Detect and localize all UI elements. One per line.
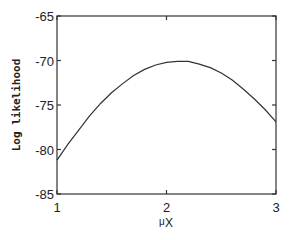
y-tick-label: -70 [35,54,54,69]
chart: -65-70-75-80-85123 Log likelihood μX [0,0,291,240]
y-axis-label: Log likelihood [10,59,23,152]
y-tick-label: -75 [35,98,54,113]
y-tick-label: -80 [35,143,54,158]
series-line-log-likelihood [57,61,276,160]
x-axis-label: μX [159,216,173,230]
y-tick-label: -85 [35,187,54,202]
x-tick-label: 3 [272,200,279,215]
y-tick-label: -65 [35,9,54,24]
plot-frame [57,16,276,194]
x-tick-label: 2 [163,200,170,215]
x-axis-label-subscript: X [165,216,173,230]
x-tick-label: 1 [53,200,60,215]
